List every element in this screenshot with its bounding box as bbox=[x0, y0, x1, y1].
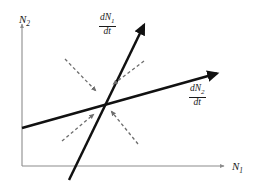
isocline-dn2dt bbox=[22, 74, 217, 129]
isocline-label-dn1dt-denominator: dt bbox=[99, 27, 116, 37]
numerator-subscript: 2 bbox=[201, 88, 205, 96]
vector-arrow-upper-left bbox=[65, 59, 96, 91]
isocline-label-dn1dt: dN1 dt bbox=[99, 13, 116, 37]
isocline-group bbox=[22, 25, 217, 180]
y-axis-label: N2 bbox=[19, 14, 30, 28]
isocline-label-dn1dt-numerator: dN1 bbox=[99, 13, 116, 27]
x-axis-label: N1 bbox=[232, 161, 243, 175]
y-axis-label-subscript: 2 bbox=[26, 19, 30, 28]
numerator-text: dN bbox=[100, 12, 111, 22]
phase-plane-figure: N2 N1 dN1 dt dN2 dt bbox=[0, 0, 253, 188]
isocline-label-dn2dt-numerator: dN2 bbox=[189, 84, 206, 98]
isocline-label-dn2dt: dN2 dt bbox=[189, 84, 206, 108]
isocline-label-dn2dt-denominator: dt bbox=[189, 98, 206, 108]
isocline-dn1dt bbox=[69, 25, 144, 180]
diagram-canvas bbox=[0, 0, 253, 188]
numerator-text: dN bbox=[190, 83, 201, 93]
numerator-subscript: 1 bbox=[111, 17, 115, 25]
x-axis-label-subscript: 1 bbox=[239, 166, 243, 175]
direction-vectors-group bbox=[62, 59, 144, 144]
vector-arrow-lower-right bbox=[112, 112, 139, 145]
